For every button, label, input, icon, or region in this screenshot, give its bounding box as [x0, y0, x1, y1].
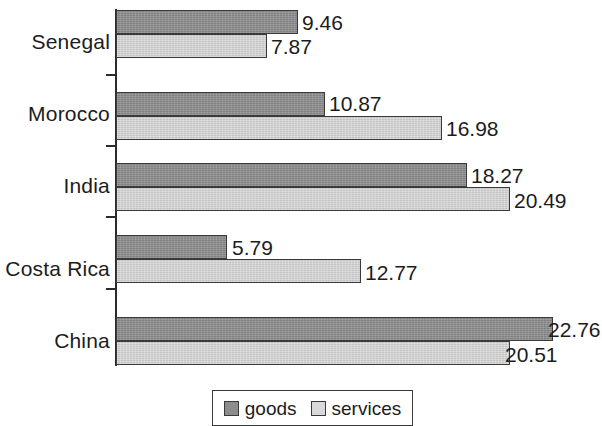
value-label-senegal-goods: 9.46: [302, 12, 343, 33]
value-label-china-goods: 22.76: [548, 319, 601, 340]
value-label-india-goods: 18.27: [471, 165, 524, 186]
category-label-costa-rica: Costa Rica: [0, 258, 110, 279]
chart-legend: goods services: [212, 390, 413, 426]
legend-entry-services: services: [311, 399, 402, 418]
axis-tick: [106, 216, 116, 218]
value-label-china-services: 20.51: [505, 344, 558, 365]
bar-india-services: [116, 187, 510, 211]
category-label-india: India: [0, 175, 110, 196]
category-label-china: China: [0, 330, 110, 351]
bar-senegal-services: [116, 34, 267, 58]
services-swatch-icon: [311, 401, 326, 416]
bar-costa-rica-goods: [116, 235, 227, 259]
legend-label-goods: goods: [245, 399, 297, 418]
goods-swatch-icon: [224, 401, 239, 416]
axis-tick: [106, 288, 116, 290]
bar-china-goods: [116, 317, 553, 341]
legend-entry-goods: goods: [224, 399, 297, 418]
legend-label-services: services: [332, 399, 402, 418]
bar-morocco-goods: [116, 92, 325, 116]
axis-tick: [106, 145, 116, 147]
value-label-india-services: 20.49: [514, 190, 567, 211]
value-label-costa-rica-goods: 5.79: [232, 237, 273, 258]
bar-morocco-services: [116, 116, 442, 140]
axis-tick: [106, 74, 116, 76]
value-label-morocco-services: 16.98: [446, 118, 499, 139]
value-label-senegal-services: 7.87: [271, 36, 312, 57]
bar-senegal-goods: [116, 10, 298, 34]
value-label-costa-rica-services: 12.77: [365, 262, 418, 283]
bar-china-services: [116, 341, 510, 365]
bar-india-goods: [116, 163, 467, 187]
category-label-senegal: Senegal: [0, 31, 110, 52]
bar-costa-rica-services: [116, 259, 361, 283]
category-label-morocco: Morocco: [0, 103, 110, 124]
value-label-morocco-goods: 10.87: [329, 93, 382, 114]
